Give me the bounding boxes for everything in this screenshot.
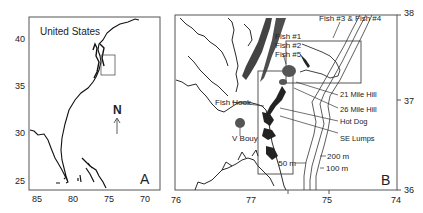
fish-site-1-2-5 [282, 65, 296, 77]
label-50m: 50 m [278, 159, 296, 168]
label-v-bouy: V Bouy [232, 134, 258, 143]
x-tick: 75 [322, 195, 332, 205]
y-tick: 25 [15, 176, 25, 186]
x-tick: 76 [171, 195, 181, 205]
x-tick: 85 [32, 194, 42, 204]
v-bouy-site [235, 118, 245, 128]
label-fish-5: Fish #5 [275, 50, 302, 59]
map-figure: United States N A 40 35 30 25 85 80 75 7… [0, 0, 423, 213]
x-tick: 75 [104, 194, 114, 204]
label-200m: 200 m [327, 152, 350, 161]
y-tick: 37 [404, 96, 414, 106]
x-tick: 74 [391, 195, 401, 205]
label-100m: 100 m [326, 164, 349, 173]
label-fish-hook: Fish Hook [215, 98, 252, 107]
north-label: N [113, 103, 122, 117]
label-fish-3-4: Fish #3 & Fish #4 [319, 14, 382, 23]
panel-b-label: B [381, 172, 390, 188]
coastal-islands [262, 86, 286, 160]
label-hot-dog: Hot Dog [340, 117, 368, 126]
label-21-mile-hill: 21 Mile Hill [340, 90, 377, 99]
label-fish-1: Fish #1 [275, 32, 302, 41]
region-label: United States [40, 26, 100, 37]
y-tick: 36 [404, 185, 414, 195]
x-tick: 70 [140, 194, 150, 204]
north-arrow-icon [114, 118, 120, 134]
x-tick: 80 [68, 194, 78, 204]
panel-a: United States N A 40 35 30 25 85 80 75 7… [15, 17, 160, 204]
x-tick: 77 [246, 195, 256, 205]
y-tick: 30 [15, 128, 25, 138]
panel-a-label: A [140, 171, 150, 187]
y-tick: 35 [15, 81, 25, 91]
y-tick: 38 [404, 8, 414, 18]
us-east-coastline [30, 19, 139, 183]
label-26-mile-hill: 26 Mile Hill [340, 105, 377, 114]
y-tick: 40 [15, 34, 25, 44]
panel-a-frame [29, 17, 160, 190]
panel-b: Fish #1 Fish #2 Fish #5 Fish #3 & Fish #… [171, 8, 414, 205]
label-fish-2: Fish #2 [275, 41, 302, 50]
label-se-lumps: SE Lumps [340, 134, 375, 143]
